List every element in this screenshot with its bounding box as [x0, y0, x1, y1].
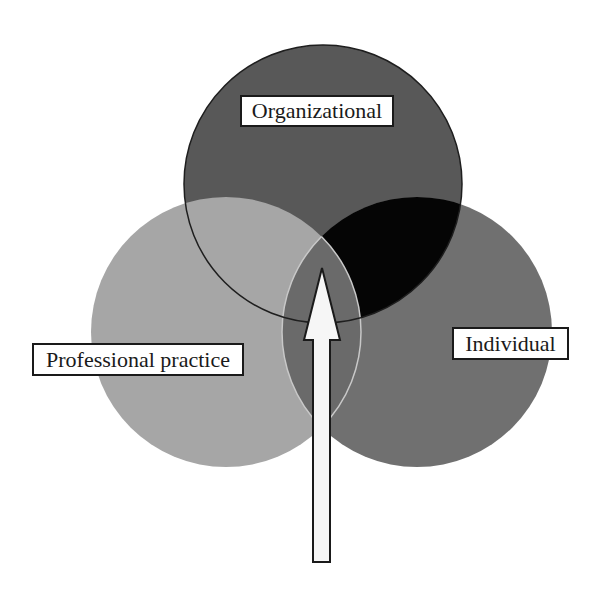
venn-svg — [0, 0, 601, 591]
professional-practice-label: Professional practice — [32, 343, 244, 376]
organizational-label: Organizational — [240, 95, 394, 127]
individual-label: Individual — [452, 327, 569, 360]
venn-diagram: Organizational Professional practice Ind… — [0, 0, 601, 591]
